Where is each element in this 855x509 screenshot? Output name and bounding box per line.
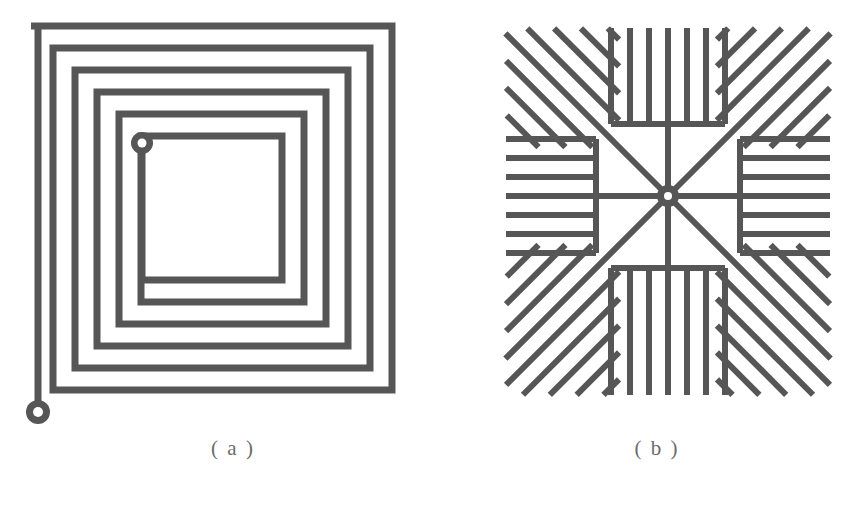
outer-terminal-pad-hole — [33, 407, 43, 417]
diagonal-finger-down-left — [507, 245, 539, 277]
figure-plate: ( a ) ( b ) — [0, 0, 855, 509]
radial-trace-group — [505, 28, 830, 395]
diagonal-finger-up-right — [798, 115, 830, 147]
center-terminal-pad-hole — [664, 192, 672, 200]
diagonal-finger-up-left — [527, 28, 619, 120]
diagonal-finger-down-right — [798, 245, 830, 277]
diagonal-finger-up-left — [507, 115, 539, 147]
caption-row: ( a ) ( b ) — [0, 436, 855, 496]
square-spiral-coil-drawing — [0, 0, 430, 440]
radial-star-coil-drawing — [430, 0, 855, 440]
inner-terminal-pad-hole — [138, 139, 147, 148]
center-terminal-pad-group — [657, 185, 679, 207]
spiral-terminal-pads — [26, 132, 153, 424]
caption-figure-a: ( a ) — [113, 436, 353, 461]
figure-panel-b — [430, 0, 855, 440]
spiral-trace-path — [31, 26, 392, 412]
diagonal-finger-up-right — [717, 28, 809, 120]
figure-panel-a — [0, 0, 430, 440]
spiral-trace-group — [31, 26, 392, 412]
diagonal-finger-down-right — [717, 299, 813, 395]
caption-figure-b: ( b ) — [537, 436, 777, 461]
diagonal-finger-down-left — [523, 299, 619, 395]
